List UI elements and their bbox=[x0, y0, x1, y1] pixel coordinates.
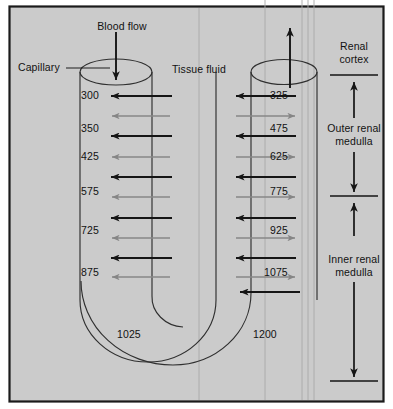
descending-value-3: 575 bbox=[81, 185, 99, 197]
blood-flow-label: Blood flow bbox=[77, 20, 167, 32]
region-label-outer-medulla-line1: Outer renal bbox=[316, 122, 392, 134]
ascending-value-2: 625 bbox=[270, 150, 288, 162]
ascending-value-1: 475 bbox=[270, 122, 288, 134]
descending-value-1: 350 bbox=[81, 122, 99, 134]
bottom-value-left: 1025 bbox=[117, 328, 141, 340]
descending-value-0: 300 bbox=[81, 89, 99, 101]
region-label-outer-medulla-line2: medulla bbox=[316, 135, 392, 147]
descending-value-4: 725 bbox=[81, 224, 99, 236]
renal-vasa-recta-diagram: Blood flow Capillary Tissue fluid 300 35… bbox=[0, 0, 393, 409]
region-label-renal-cortex-line1: Renal bbox=[322, 40, 386, 52]
bottom-value-right: 1200 bbox=[253, 328, 277, 340]
region-label-inner-medulla-line2: medulla bbox=[316, 266, 392, 278]
descending-value-2: 425 bbox=[81, 150, 99, 162]
region-label-renal-cortex-line2: cortex bbox=[322, 53, 386, 65]
ascending-value-5: 1075 bbox=[264, 266, 288, 278]
tissue-fluid-label: Tissue fluid bbox=[172, 63, 226, 75]
ascending-value-4: 925 bbox=[270, 224, 288, 236]
capillary-label: Capillary bbox=[18, 61, 60, 73]
ascending-value-3: 775 bbox=[270, 185, 288, 197]
ascending-value-0: 325 bbox=[270, 89, 288, 101]
descending-value-5: 875 bbox=[81, 266, 99, 278]
region-label-inner-medulla-line1: Inner renal bbox=[316, 253, 392, 265]
